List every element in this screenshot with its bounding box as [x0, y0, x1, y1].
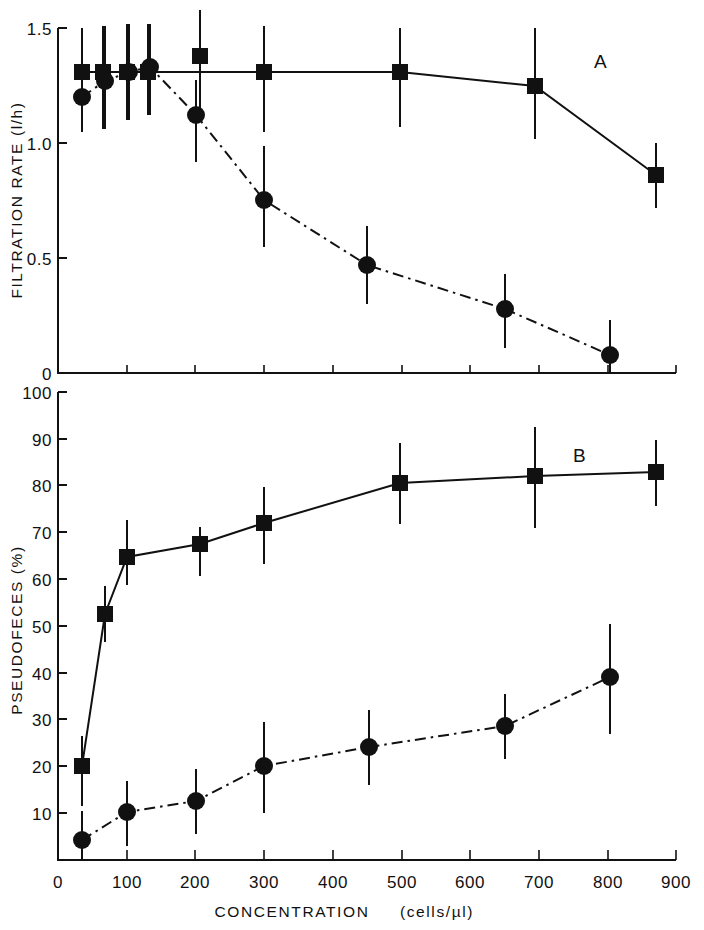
panel-b: 100 90 80 70 60 50 40 30 20 10 PSEUDOFEC…: [8, 384, 691, 920]
x-axis-units: (cells/µl): [400, 903, 474, 920]
xtick-700: 700: [524, 873, 554, 892]
panel-b-ytick-100: 100: [22, 384, 52, 403]
data-point-square: [192, 48, 208, 64]
panel-a-ytick-0.5: 0.5: [27, 250, 52, 269]
xtick-200: 200: [180, 873, 210, 892]
data-point-square: [648, 167, 664, 183]
panel-b-y-ticks: [58, 392, 67, 860]
data-point-circle: [358, 256, 376, 274]
panel-a-circles-line: [82, 67, 610, 355]
data-point-circle: [96, 72, 114, 90]
panel-b-circle-markers: [73, 668, 619, 849]
data-point-circle: [187, 792, 205, 810]
panel-b-circles-line: [82, 677, 610, 840]
panel-a-squares-errorbars: [82, 10, 656, 208]
xtick-100: 100: [112, 873, 142, 892]
data-point-circle: [120, 63, 138, 81]
data-point-square: [527, 78, 543, 94]
data-point-square: [192, 536, 208, 552]
data-point-square: [392, 475, 408, 491]
data-point-square: [74, 758, 90, 774]
data-point-circle: [141, 58, 159, 76]
xtick-500: 500: [387, 873, 417, 892]
data-point-square: [648, 464, 664, 480]
xtick-400: 400: [318, 873, 348, 892]
data-point-circle: [496, 300, 514, 318]
panel-b-ytick-70: 70: [32, 524, 52, 543]
panel-b-circles-errorbars: [82, 624, 610, 860]
data-point-square: [527, 468, 543, 484]
panel-b-ytick-50: 50: [32, 618, 52, 637]
xtick-600: 600: [455, 873, 485, 892]
data-point-square: [256, 515, 272, 531]
data-point-square: [119, 549, 135, 565]
data-point-circle: [255, 757, 273, 775]
panel-a-ytick-1.5: 1.5: [27, 20, 52, 39]
data-point-circle: [496, 717, 514, 735]
data-point-square: [97, 606, 113, 622]
panel-a-squares-line: [82, 72, 656, 175]
data-point-square: [392, 64, 408, 80]
panel-b-ytick-40: 40: [32, 665, 52, 684]
data-point-square: [74, 64, 90, 80]
panel-b-ytick-10: 10: [32, 805, 52, 824]
data-point-square: [256, 64, 272, 80]
data-point-circle: [73, 831, 91, 849]
panel-a-ytick-1.0: 1.0: [27, 135, 52, 154]
panel-b-ytick-30: 30: [32, 711, 52, 730]
panel-a: 1.5 1.0 0.5 0 FILTRATION RATE (l/h): [8, 10, 676, 384]
data-point-circle: [360, 738, 378, 756]
panel-b-ytick-20: 20: [32, 758, 52, 777]
panel-a-x-ticks: [127, 365, 676, 373]
data-point-circle: [73, 88, 91, 106]
xtick-300: 300: [249, 873, 279, 892]
xtick-800: 800: [593, 873, 623, 892]
xtick-0: 0: [53, 873, 63, 892]
panel-a-ytick-0: 0: [42, 365, 52, 384]
x-axis-title: CONCENTRATION: [215, 903, 370, 920]
panel-a-y-axis-title: FILTRATION RATE (l/h): [8, 101, 25, 298]
panel-a-label: A: [594, 51, 607, 72]
panel-b-y-axis-title: PSEUDOFECES (%): [8, 545, 25, 715]
data-point-circle: [255, 191, 273, 209]
panel-b-x-ticks: [127, 850, 676, 860]
data-point-circle: [601, 346, 619, 364]
figure-container: 1.5 1.0 0.5 0 FILTRATION RATE (l/h): [0, 0, 704, 930]
panel-b-ytick-80: 80: [32, 477, 52, 496]
panel-b-ytick-60: 60: [32, 571, 52, 590]
data-point-circle: [187, 106, 205, 124]
data-point-circle: [118, 803, 136, 821]
xtick-900: 900: [661, 873, 691, 892]
figure-svg: 1.5 1.0 0.5 0 FILTRATION RATE (l/h): [0, 0, 704, 930]
panel-a-circle-markers: [73, 58, 619, 364]
data-point-circle: [601, 668, 619, 686]
panel-b-label: B: [573, 445, 586, 466]
panel-b-ytick-90: 90: [32, 431, 52, 450]
panel-a-y-ticks: [58, 28, 67, 373]
